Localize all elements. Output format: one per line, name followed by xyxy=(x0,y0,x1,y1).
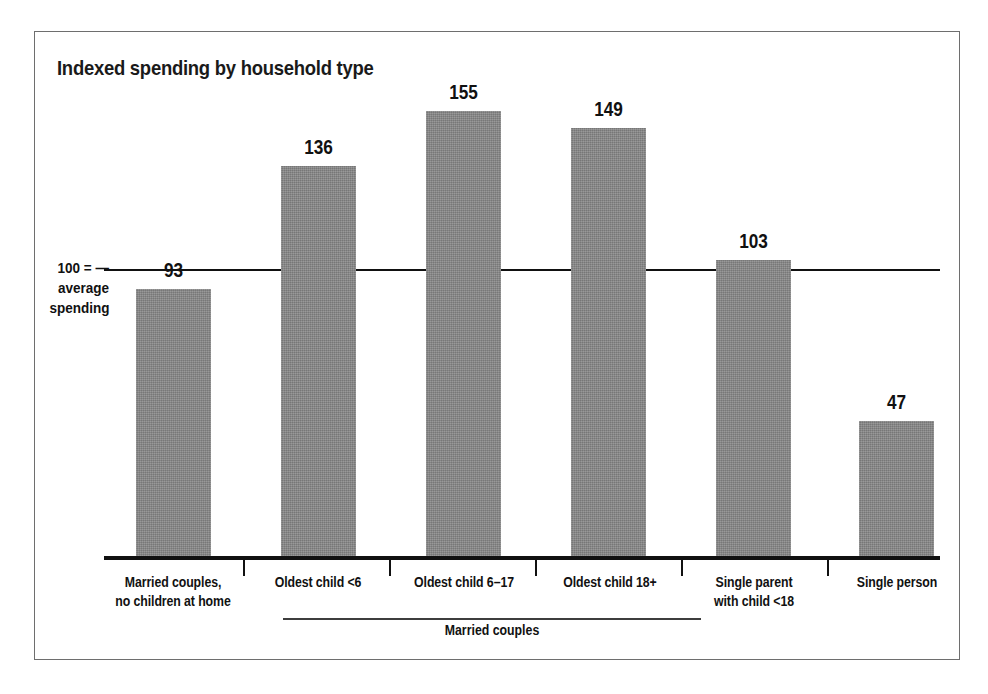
category-label-oldest-child-under-6: Oldest child <6 xyxy=(251,573,385,592)
category-label-line-2: with child <18 xyxy=(687,592,821,611)
bar-value-oldest-child-6-17: 155 xyxy=(431,81,496,104)
chart-figure-frame: Indexed spending by household type 100 =… xyxy=(34,31,960,660)
category-label-oldest-child-18-plus: Oldest child 18+ xyxy=(543,573,677,592)
reference-annotation-line-3: spending xyxy=(50,298,109,318)
reference-annotation-line-1: 100 = — xyxy=(50,258,109,278)
reference-line-100 xyxy=(104,269,940,271)
category-label-single-parent-child-under-18: Single parent with child <18 xyxy=(687,573,821,612)
bar-value-oldest-child-18-plus: 149 xyxy=(576,98,641,121)
category-label-line-1: Single person xyxy=(830,573,964,592)
reference-line-annotation: 100 = — average spending xyxy=(50,258,109,317)
bar-married-couples-no-children[interactable] xyxy=(136,289,211,556)
axis-tick-3 xyxy=(535,560,537,576)
bar-oldest-child-6-17[interactable] xyxy=(426,111,501,556)
bar-single-parent-child-under-18[interactable] xyxy=(716,260,791,556)
axis-tick-4 xyxy=(681,560,683,576)
chart-plot-area: 100 = — average spending 93 136 155 149 … xyxy=(35,32,959,659)
category-label-single-person: Single person xyxy=(830,573,964,592)
bar-value-oldest-child-under-6: 136 xyxy=(286,136,351,159)
group-bracket-line-married-couples xyxy=(283,618,701,620)
category-label-married-couples-no-children: Married couples, no children at home xyxy=(106,573,240,612)
bar-oldest-child-18-plus[interactable] xyxy=(571,128,646,556)
category-label-line-1: Oldest child 6–17 xyxy=(397,573,531,592)
axis-tick-5 xyxy=(827,560,829,576)
bar-oldest-child-under-6[interactable] xyxy=(281,166,356,556)
category-label-line-1: Married couples, xyxy=(106,573,240,592)
category-label-line-1: Single parent xyxy=(687,573,821,592)
reference-annotation-line-2: average xyxy=(50,278,109,298)
bar-value-married-couples-no-children: 93 xyxy=(141,259,206,282)
axis-tick-1 xyxy=(243,560,245,576)
category-label-line-2: no children at home xyxy=(106,592,240,611)
bar-single-person[interactable] xyxy=(859,421,934,556)
category-label-oldest-child-6-17: Oldest child 6–17 xyxy=(397,573,531,592)
group-bracket-label-married-couples: Married couples xyxy=(308,622,676,638)
bar-value-single-parent-child-under-18: 103 xyxy=(721,230,786,253)
category-label-line-1: Oldest child 18+ xyxy=(543,573,677,592)
axis-baseline xyxy=(104,556,940,560)
axis-tick-2 xyxy=(389,560,391,576)
category-label-line-1: Oldest child <6 xyxy=(251,573,385,592)
bar-value-single-person: 47 xyxy=(864,391,929,414)
